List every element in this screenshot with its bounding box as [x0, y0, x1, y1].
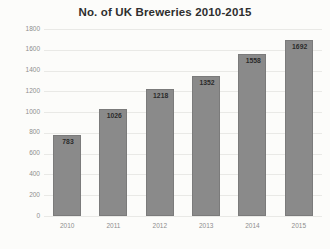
y-axis-tick-label: 1800 — [6, 26, 40, 33]
bar[interactable]: 1558 — [238, 54, 266, 216]
y-axis-tick-label: 400 — [6, 171, 40, 178]
y-axis-tick-label: 0 — [6, 213, 40, 220]
bar[interactable]: 783 — [53, 135, 81, 216]
bar[interactable]: 1692 — [285, 40, 313, 216]
bar-value-label: 1026 — [100, 113, 128, 120]
x-axis-tick-label: 2014 — [229, 223, 275, 230]
bar-slot: 1352 — [183, 29, 229, 216]
y-axis-tick-label: 1600 — [6, 46, 40, 53]
bar-chart: No. of UK Breweries 2010-2015 1800160014… — [0, 0, 330, 249]
chart-title: No. of UK Breweries 2010-2015 — [0, 6, 330, 18]
bar-slot: 783 — [44, 29, 90, 216]
x-axis: 201020112012201320142015 — [44, 219, 322, 235]
y-axis-tick-label: 600 — [6, 150, 40, 157]
gridline — [44, 216, 322, 217]
bar-slot: 1026 — [90, 29, 136, 216]
bar-value-label: 1558 — [239, 58, 267, 65]
bar[interactable]: 1352 — [192, 76, 220, 216]
plot-area: 78310261218135215581692 — [44, 29, 322, 216]
bar-value-label: 1218 — [147, 93, 175, 100]
bar[interactable]: 1218 — [146, 89, 174, 216]
x-axis-tick-label: 2013 — [183, 223, 229, 230]
x-axis-tick-label: 2012 — [137, 223, 183, 230]
bar-slot: 1558 — [229, 29, 275, 216]
bar-value-label: 783 — [54, 139, 82, 146]
y-axis-tick-label: 1000 — [6, 109, 40, 116]
bar-value-label: 1352 — [193, 80, 221, 87]
x-axis-tick-label: 2015 — [276, 223, 322, 230]
y-axis-tick-label: 800 — [6, 129, 40, 136]
x-axis-tick-label: 2011 — [90, 223, 136, 230]
y-axis: 180016001400120010008006004002000 — [0, 29, 40, 216]
bar-value-label: 1692 — [286, 44, 314, 51]
bar[interactable]: 1026 — [99, 109, 127, 216]
y-axis-tick-label: 200 — [6, 192, 40, 199]
y-axis-tick-label: 1400 — [6, 67, 40, 74]
x-axis-tick-label: 2010 — [44, 223, 90, 230]
bar-slot: 1218 — [137, 29, 183, 216]
bar-slot: 1692 — [276, 29, 322, 216]
y-axis-tick-label: 1200 — [6, 88, 40, 95]
